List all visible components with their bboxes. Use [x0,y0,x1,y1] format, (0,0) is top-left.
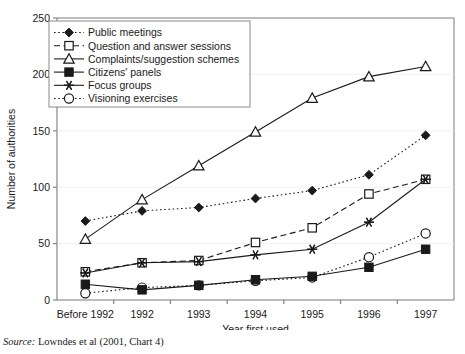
marker-open-square [365,190,373,198]
marker-open-square [251,238,259,246]
legend-label: Question and answer sessions [88,40,231,52]
marker-filled-square [81,280,89,288]
marker-open-triangle [250,127,260,136]
marker-filled-square [421,245,429,253]
marker-open-triangle [137,194,147,203]
marker-open-circle [364,253,373,262]
x-tick-label: 1992 [130,308,154,320]
marker-filled-diamond [251,194,260,203]
legend-label: Complaints/suggestion schemes [88,53,239,65]
y-tick-label: 200 [32,68,50,80]
y-axis-title: Number of authorities [5,109,17,209]
series-1 [81,131,430,226]
marker-star [307,245,317,254]
marker-filled-square [195,281,203,289]
chart-container: 050100150200250Before 199219921993199419… [0,0,465,354]
x-axis-title: Year first used [222,323,289,330]
marker-filled-diamond [194,203,203,212]
marker-filled-square [251,275,259,283]
source-caption: Source: Lowndes et al (2001, Chart 4) [3,336,164,347]
x-tick-label: 1994 [244,308,268,320]
marker-open-square [308,224,316,232]
marker-open-triangle [420,61,430,70]
series-4 [81,245,430,294]
y-tick-label: 150 [32,125,50,137]
source-prefix: Source: [3,336,35,347]
marker-filled-square [308,272,316,280]
x-tick-label: 1996 [357,308,381,320]
marker-open-square [65,42,73,50]
marker-open-circle [421,229,430,238]
marker-open-triangle [307,93,317,102]
legend-label: Focus groups [88,79,152,91]
y-tick-label: 100 [32,181,50,193]
marker-open-circle [64,94,73,103]
marker-filled-diamond [138,206,147,215]
series-line [85,135,425,221]
line-chart: 050100150200250Before 199219921993199419… [0,0,465,330]
y-tick-label: 50 [38,237,50,249]
marker-open-circle [81,289,90,298]
marker-open-triangle [80,234,90,243]
marker-open-triangle [194,161,204,170]
marker-filled-square [138,286,146,294]
marker-filled-diamond [421,131,430,140]
chart-legend: Public meetingsQuestion and answer sessi… [49,21,250,107]
marker-filled-diamond [81,217,90,226]
marker-star [251,251,261,260]
x-tick-label: 1993 [187,308,211,320]
series-5 [80,175,430,277]
marker-filled-diamond [365,170,374,179]
legend-label: Public meetings [88,26,162,38]
series-line [85,179,425,273]
marker-filled-square [65,68,73,76]
y-tick-label: 0 [44,294,50,306]
series-line [85,179,425,271]
series-2 [81,175,430,276]
source-text: Lowndes et al (2001, Chart 4) [38,336,164,347]
legend-label: Visioning exercises [88,92,178,104]
x-tick-label: Before 1992 [57,308,114,320]
x-tick-label: 1995 [301,308,325,320]
x-tick-label: 1997 [414,308,438,320]
legend-label: Citizens' panels [88,66,161,78]
marker-filled-square [365,263,373,271]
y-tick-label: 250 [32,12,50,24]
